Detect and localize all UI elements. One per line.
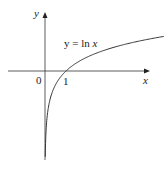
curve-equation: y = ln x xyxy=(64,37,98,49)
y-axis-arrow-icon xyxy=(43,12,48,18)
origin-label: 0 xyxy=(36,74,42,86)
x-axis-arrow-icon xyxy=(144,69,150,74)
x-axis-label: x xyxy=(142,74,148,86)
tick-1-label: 1 xyxy=(63,75,69,87)
ln-graph: y x 0 1 y = ln x xyxy=(0,0,164,174)
y-axis-label: y xyxy=(33,7,39,19)
ln-curve xyxy=(45,32,164,157)
